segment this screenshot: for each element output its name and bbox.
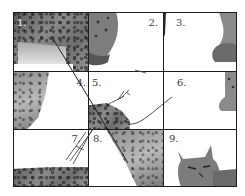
grid-divider-v1 — [88, 12, 89, 187]
tile-number: 4. — [76, 78, 86, 88]
lynx-fur-image — [13, 167, 88, 187]
white-edge — [13, 64, 73, 71]
grid-border-bottom — [13, 186, 237, 187]
tile-number: 2. — [148, 18, 158, 28]
tile-number: 8. — [93, 134, 103, 144]
grid-border-left — [13, 12, 14, 187]
lynx-paw-image — [163, 71, 237, 129]
grid-divider-h2 — [13, 129, 237, 130]
tile-2: 2. — [88, 12, 163, 71]
tile-1: 1. — [13, 12, 88, 71]
tile-number: 7. — [71, 134, 81, 144]
tile-7: 7. — [13, 129, 88, 187]
tile-8: 8. — [88, 129, 163, 187]
tile-number: 1. — [17, 18, 27, 28]
lynx-back-image — [88, 103, 130, 129]
tile-3: 3. — [163, 12, 237, 71]
puzzle-grid: 1. 2. 3. 4. 5. 6. 7. — [13, 12, 237, 187]
grid-border-top — [13, 12, 237, 13]
tile-number: 9. — [169, 134, 179, 144]
lynx-fur-image — [13, 71, 49, 129]
tile-4: 4. — [13, 71, 88, 129]
tile-number: 5. — [92, 78, 102, 88]
tile-number: 6. — [177, 78, 187, 88]
lynx-chest-image — [106, 129, 163, 187]
tile-6: 6. — [163, 71, 237, 129]
tile-9: 9. — [163, 129, 237, 187]
tile-5: 5. — [88, 71, 163, 129]
grid-divider-h1 — [13, 71, 237, 72]
grid-border-right — [236, 12, 237, 187]
grid-divider-v2 — [163, 12, 164, 187]
lynx-paw-image — [163, 12, 237, 71]
tile-number: 3. — [176, 18, 186, 28]
